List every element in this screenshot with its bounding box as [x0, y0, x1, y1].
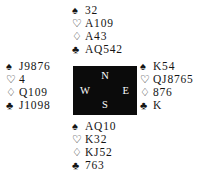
- compass-box: N W E S: [73, 66, 137, 115]
- hand-east-hearts-row: ♡ QJ8765: [140, 73, 194, 86]
- hand-east: ♠ K54 ♡ QJ8765 ♢ 876 ♣ K: [140, 60, 194, 112]
- hand-south-clubs-row: ♣ 763: [72, 159, 116, 172]
- hand-north-diamonds-row: ♢ A43: [72, 30, 123, 43]
- diamond-icon: ♢: [140, 86, 153, 99]
- club-icon: ♣: [72, 43, 85, 56]
- hand-east-clubs: K: [153, 99, 162, 112]
- hand-east-spades: K54: [153, 60, 175, 73]
- hand-west-clubs-row: ♣ J1098: [6, 99, 50, 112]
- hand-north-diamonds: A43: [85, 30, 107, 43]
- hand-east-hearts: QJ8765: [153, 73, 194, 86]
- hand-west-hearts: 4: [19, 73, 26, 86]
- hand-north-hearts-row: ♡ A109: [72, 17, 123, 30]
- hand-south-diamonds-row: ♢ KJ52: [72, 146, 116, 159]
- diamond-icon: ♢: [6, 86, 19, 99]
- compass-label-east: E: [123, 85, 129, 96]
- compass-label-south: S: [102, 100, 108, 111]
- hand-east-diamonds-row: ♢ 876: [140, 86, 194, 99]
- diamond-icon: ♢: [72, 30, 85, 43]
- hand-west-diamonds: Q109: [19, 86, 48, 99]
- club-icon: ♣: [140, 99, 153, 112]
- hand-south-spades: AQ10: [85, 120, 116, 133]
- hand-south-spades-row: ♠ AQ10: [72, 120, 116, 133]
- hand-south: ♠ AQ10 ♡ K32 ♢ KJ52 ♣ 763: [72, 120, 116, 172]
- compass-label-north: N: [101, 71, 109, 82]
- hand-south-diamonds: KJ52: [85, 146, 112, 159]
- hand-west-spades: J9876: [19, 60, 50, 73]
- club-icon: ♣: [6, 99, 19, 112]
- hand-south-hearts: K32: [85, 133, 107, 146]
- hand-north-hearts: A109: [85, 17, 114, 30]
- hand-north-spades-row: ♠ 32: [72, 4, 123, 17]
- hand-west-hearts-row: ♡ 4: [6, 73, 50, 86]
- hand-north: ♠ 32 ♡ A109 ♢ A43 ♣ AQ542: [72, 4, 123, 56]
- hand-west-diamonds-row: ♢ Q109: [6, 86, 50, 99]
- hand-south-clubs: 763: [85, 159, 105, 172]
- spade-icon: ♠: [72, 4, 85, 17]
- hand-south-hearts-row: ♡ K32: [72, 133, 116, 146]
- hand-north-spades: 32: [85, 4, 98, 17]
- hand-east-spades-row: ♠ K54: [140, 60, 194, 73]
- compass-label-west: W: [80, 85, 90, 96]
- heart-icon: ♡: [6, 73, 19, 86]
- diamond-icon: ♢: [72, 146, 85, 159]
- hand-east-clubs-row: ♣ K: [140, 99, 194, 112]
- spade-icon: ♠: [72, 120, 85, 133]
- hand-east-diamonds: 876: [153, 86, 173, 99]
- heart-icon: ♡: [72, 17, 85, 30]
- hand-west: ♠ J9876 ♡ 4 ♢ Q109 ♣ J1098: [6, 60, 50, 112]
- hand-north-clubs: AQ542: [85, 43, 123, 56]
- spade-icon: ♠: [6, 60, 19, 73]
- heart-icon: ♡: [140, 73, 153, 86]
- spade-icon: ♠: [140, 60, 153, 73]
- hand-north-clubs-row: ♣ AQ542: [72, 43, 123, 56]
- hand-west-spades-row: ♠ J9876: [6, 60, 50, 73]
- hand-west-clubs: J1098: [19, 99, 50, 112]
- club-icon: ♣: [72, 159, 85, 172]
- heart-icon: ♡: [72, 133, 85, 146]
